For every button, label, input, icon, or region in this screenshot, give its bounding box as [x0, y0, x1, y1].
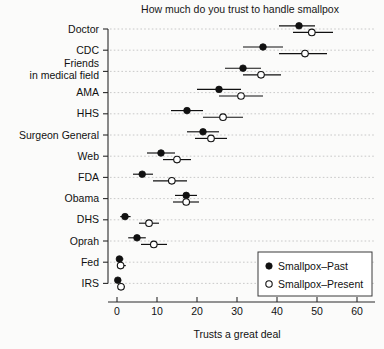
data-point-present	[118, 284, 125, 291]
x-axis-tick-label: 40	[271, 305, 283, 317]
data-point-past	[122, 213, 129, 220]
category-label: IRS	[81, 277, 99, 289]
category-label: FDA	[78, 171, 99, 183]
data-row	[147, 150, 191, 163]
data-point-present	[238, 93, 245, 100]
x-axis-group: 0102030405060	[108, 297, 375, 317]
smallpox-trust-dot-chart: How much do you trust to handle smallpox…	[0, 0, 384, 349]
legend-label: Smallpox–Past	[278, 260, 348, 272]
category-label: AMA	[76, 86, 99, 98]
data-point-past	[139, 171, 146, 178]
x-axis-title-group: Trusts a great deal	[193, 328, 280, 340]
x-axis-tick-label: 60	[351, 305, 363, 317]
category-label: Friendsin medical field	[30, 57, 100, 81]
data-point-past	[216, 86, 223, 93]
data-row	[225, 65, 281, 78]
category-label-line: in medical field	[30, 69, 100, 81]
data-point-past	[296, 23, 303, 30]
chart-legend: Smallpox–PastSmallpox–Present	[258, 252, 372, 296]
data-point-present	[174, 156, 181, 163]
data-point-past	[134, 235, 141, 242]
chart-title: How much do you trust to handle smallpox	[141, 3, 340, 15]
category-label: Web	[78, 150, 100, 162]
data-point-past	[158, 150, 165, 157]
category-label: HHS	[77, 107, 99, 119]
category-axis-labels-group: DoctorCDCFriendsin medical fieldAMAHHSSu…	[19, 23, 99, 289]
x-axis-tick-label: 30	[231, 305, 243, 317]
data-point-past	[240, 65, 247, 72]
data-point-present	[183, 199, 190, 206]
category-label: Surgeon General	[19, 129, 99, 141]
data-point-present	[302, 50, 309, 57]
x-axis-tick-label: 20	[191, 305, 203, 317]
data-point-present	[169, 178, 176, 185]
legend-marker-open-circle-icon	[266, 281, 272, 287]
data-point-present	[208, 135, 215, 142]
category-label: DHS	[77, 213, 99, 225]
legend-marker-filled-circle-icon	[266, 263, 272, 269]
data-point-present	[309, 29, 316, 36]
data-point-present	[258, 72, 265, 79]
category-label: CDC	[76, 44, 99, 56]
data-point-present	[151, 241, 158, 248]
legend-label: Smallpox–Present	[278, 278, 363, 290]
data-point-present	[220, 114, 227, 121]
data-point-past	[116, 256, 123, 263]
data-point-past	[184, 107, 191, 114]
category-label: Doctor	[68, 23, 99, 35]
x-axis-title: Trusts a great deal	[193, 328, 280, 340]
data-row	[116, 256, 126, 269]
chart-container: How much do you trust to handle smallpox…	[0, 0, 384, 349]
x-axis-tick-label: 50	[311, 305, 323, 317]
y-axis-group	[103, 29, 108, 283]
category-label: Obama	[65, 192, 100, 204]
data-row	[115, 277, 126, 290]
x-axis-tick-label: 10	[151, 305, 163, 317]
x-axis-tick-label: 0	[114, 305, 120, 317]
chart-title-group: How much do you trust to handle smallpox	[141, 3, 340, 15]
data-row	[197, 86, 263, 99]
data-point-present	[117, 262, 124, 269]
data-point-past	[115, 277, 122, 284]
data-point-past	[183, 192, 190, 199]
data-row	[279, 23, 333, 36]
data-point-present	[146, 220, 153, 227]
data-point-past	[200, 129, 207, 136]
category-label-line: Friends	[64, 57, 99, 69]
category-label: Fed	[81, 256, 99, 268]
category-label: Oprah	[70, 235, 99, 247]
data-point-past	[260, 44, 267, 51]
